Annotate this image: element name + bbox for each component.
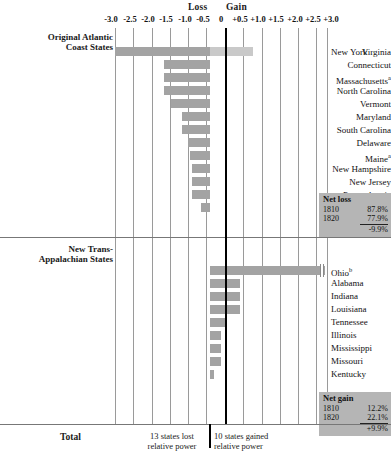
gridline--2.0	[152, 28, 153, 424]
bar-delaware	[188, 138, 210, 147]
total-row-label: Total	[60, 432, 81, 442]
bar-new-jersey	[192, 177, 210, 186]
summary-value: 22.1%	[360, 413, 388, 424]
row-label-vermont: Vermont	[278, 99, 391, 109]
bar-mississippi	[210, 344, 221, 353]
row-label-louisiana: Louisiana	[331, 304, 367, 314]
summary-year: 1820	[323, 413, 339, 424]
bar-north-carolina	[164, 86, 210, 95]
row-label-indiana: Indiana	[331, 291, 358, 301]
summary-box-net-gain: Net gain 1810 12.2% 1820 22.1% +9.9%	[319, 392, 391, 436]
group-separator	[0, 237, 391, 238]
summary-row: 1810 87.8%	[323, 205, 388, 215]
footnote-gain: 10 states gained relative power	[214, 431, 304, 451]
summary-year: 1810	[323, 205, 339, 215]
summary-row: 1820 77.9%	[323, 214, 388, 225]
axis-loss-label: Loss	[188, 2, 207, 12]
axis-break-icon	[320, 265, 324, 276]
bottom-axis-separator	[0, 424, 391, 425]
bar-virginia	[115, 47, 210, 56]
row-label-illinois: Illinois	[331, 330, 357, 340]
bar-kentucky	[210, 370, 214, 379]
group-heading-line: Coast States	[0, 42, 113, 52]
summary-row: 1820 22.1%	[323, 413, 388, 424]
row-label-north-carolina: North Carolina	[278, 86, 391, 96]
bar-rhode-island	[201, 203, 210, 212]
row-label-maryland: Maryland	[278, 112, 391, 122]
summary-year: 1820	[323, 214, 339, 225]
summary-title: Net gain	[323, 394, 388, 404]
group-heading-line: Original Atlantic	[0, 32, 113, 42]
group-heading-original-atlantic: Original Atlantic Coast States	[0, 32, 113, 52]
axis-gain-label: Gain	[226, 2, 247, 12]
summary-value: 87.8%	[360, 205, 388, 215]
gridline-+0.5	[243, 28, 244, 424]
gridline-zero	[225, 28, 227, 424]
chart-root: Loss Gain -3.0 -2.5 -2.0 -1.5 -1.0 -0.5 …	[0, 0, 391, 459]
bar-missouri	[210, 357, 221, 366]
row-label-missouri: Missouri	[331, 356, 363, 366]
summary-row: 1810 12.2%	[323, 404, 388, 414]
footnote-loss: 13 states lost relative power	[135, 431, 209, 451]
row-label-tennessee: Tennessee	[331, 317, 368, 327]
footnote-gain-line: 10 states gained	[214, 431, 304, 441]
row-label-kentucky: Kentucky	[331, 369, 366, 379]
bar-illinois	[210, 331, 221, 340]
axis-tick-labels: -3.0 -2.5 -2.0 -1.5 -1.0 -0.5 0 +0.5 +1.…	[0, 14, 391, 26]
bar-vermont	[171, 99, 210, 108]
row-label-ohio: Ohiob	[331, 265, 352, 278]
row-label-massachusetts: Massachusettsa	[278, 73, 391, 86]
gridline-+1.0	[262, 28, 263, 424]
group-heading-new-trans-appalachian: New Trans- Appalachian States	[0, 244, 113, 264]
row-label-new-jersey: New Jersey	[278, 177, 391, 187]
bar-maine	[190, 151, 210, 160]
row-label-south-carolina: South Carolina	[278, 125, 391, 135]
bar-maryland	[182, 112, 210, 121]
bar-new-hampshire	[192, 164, 210, 173]
summary-value: 12.2%	[360, 404, 388, 414]
group-heading-line: Appalachian States	[0, 254, 113, 264]
summary-title: Net loss	[323, 195, 388, 205]
bar-massachusetts	[164, 73, 210, 82]
row-label-delaware: Delaware	[278, 138, 391, 148]
gridline--3.0	[115, 28, 116, 424]
zero-axis-extension	[209, 424, 211, 448]
summary-box-net-loss: Net loss 1810 87.8% 1820 77.9% -9.9%	[319, 193, 391, 237]
summary-year: 1810	[323, 404, 339, 414]
footnote-loss-line: relative power	[135, 441, 209, 451]
summary-total: -9.9%	[323, 225, 388, 235]
row-label-connecticut: Connecticut	[278, 60, 391, 70]
row-label-maine: Mainea	[278, 151, 391, 164]
bar-pennsylvania	[192, 190, 210, 199]
row-label-alabama: Alabama	[331, 278, 363, 288]
tick-label: +3.0	[318, 14, 344, 24]
bar-ohio	[210, 266, 325, 275]
group-heading-line: New Trans-	[0, 244, 113, 254]
row-label-mississippi: Mississippi	[331, 343, 372, 353]
bar-south-carolina	[182, 125, 210, 134]
summary-value: 77.9%	[360, 214, 388, 225]
row-label-new-hampshire: New Hampshire	[278, 164, 391, 174]
annotation-new-york: New York	[331, 47, 368, 57]
footnote-gain-line: relative power	[214, 441, 304, 451]
footnote-loss-line: 13 states lost	[135, 431, 209, 441]
gridline--2.5	[133, 28, 134, 424]
bar-connecticut	[164, 60, 210, 69]
